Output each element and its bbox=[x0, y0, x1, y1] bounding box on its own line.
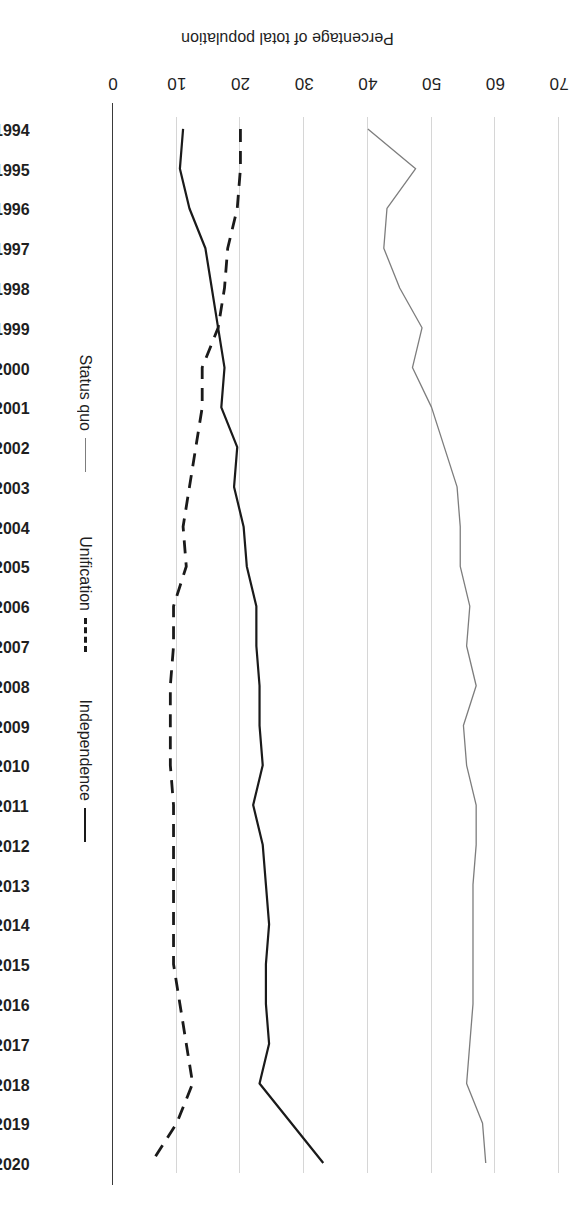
category-tick-label: 1994 bbox=[0, 122, 82, 140]
value-tick-label: 40 bbox=[348, 73, 388, 93]
line-chart: 010203040506070 Percentage of total popu… bbox=[0, 0, 575, 1215]
category-tick-label: 2014 bbox=[0, 917, 82, 935]
legend-label: Independence bbox=[76, 700, 94, 801]
value-tick-label: 20 bbox=[220, 73, 260, 93]
category-tick-label: 2000 bbox=[0, 361, 82, 379]
legend-item-unification[interactable]: Unification bbox=[0, 639, 85, 665]
category-tick-label: 2020 bbox=[0, 1156, 82, 1174]
category-tick-label: 1996 bbox=[0, 201, 82, 219]
value-tick-label: 0 bbox=[93, 73, 133, 93]
value-tick-label: 60 bbox=[475, 73, 515, 93]
series-line-status-quo bbox=[368, 129, 486, 1163]
category-tick-label: 1995 bbox=[0, 162, 82, 180]
chart-stage: 010203040506070 Percentage of total popu… bbox=[0, 0, 575, 1215]
chart-legend: IndependenceUnificationStatus quo bbox=[3, 395, 103, 915]
value-axis-title: Percentage of total population bbox=[0, 29, 575, 47]
legend-item-independence[interactable]: Independence bbox=[0, 829, 85, 855]
value-tick-label: 50 bbox=[412, 73, 452, 93]
category-tick-label: 2015 bbox=[0, 957, 82, 975]
legend-label: Unification bbox=[76, 536, 94, 611]
category-tick-label: 1998 bbox=[0, 281, 82, 299]
value-tick-label: 30 bbox=[284, 73, 324, 93]
plot-area bbox=[113, 117, 559, 1173]
category-tick-label: 1999 bbox=[0, 321, 82, 339]
legend-item-status-quo[interactable]: Status quo bbox=[0, 459, 85, 485]
category-tick-label: 2018 bbox=[0, 1077, 82, 1095]
series-line-independence bbox=[180, 129, 323, 1163]
series-line-unification bbox=[151, 129, 240, 1163]
category-tick-label: 2016 bbox=[0, 997, 82, 1015]
legend-label: Status quo bbox=[76, 355, 94, 432]
legend-swatch-thin bbox=[85, 438, 86, 472]
series-layer bbox=[113, 117, 559, 1173]
category-tick-label: 2019 bbox=[0, 1116, 82, 1134]
category-tick-label: 2017 bbox=[0, 1037, 82, 1055]
value-tick-label: 70 bbox=[539, 73, 575, 93]
legend-swatch-solid bbox=[84, 808, 86, 842]
value-tick-label: 10 bbox=[157, 73, 197, 93]
category-tick-label: 1997 bbox=[0, 241, 82, 259]
legend-swatch-dashed bbox=[84, 618, 87, 652]
